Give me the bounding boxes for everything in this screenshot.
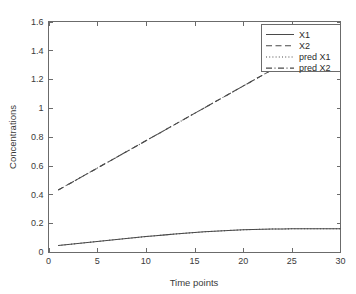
legend-label-pred-x2: pred X2 [299, 63, 331, 73]
y-axis-tick-labels: 00.20.40.60.811.21.41.6 [31, 17, 44, 258]
y-tick-label: 1.2 [31, 74, 44, 84]
y-tick-label: 0.4 [31, 190, 44, 200]
line-chart: 00.20.40.60.811.21.41.6 051015202530 Tim… [0, 0, 356, 294]
y-tick-label: 1.6 [31, 17, 44, 27]
y-axis-label: Concentrations [7, 105, 18, 169]
x-tick-label: 25 [287, 256, 297, 266]
y-tick-label: 0 [38, 247, 43, 257]
y-tick-label: 0.6 [31, 161, 44, 171]
y-tick-label: 0.2 [31, 218, 44, 228]
y-tick-label: 1.4 [31, 46, 44, 56]
y-tick-label: 0.8 [31, 132, 44, 142]
x-tick-label: 30 [335, 256, 345, 266]
x-tick-label: 20 [238, 256, 248, 266]
x-tick-label: 15 [189, 256, 199, 266]
chart-figure: 00.20.40.60.811.21.41.6 051015202530 Tim… [0, 0, 356, 294]
legend-label-x2: X2 [299, 41, 310, 51]
x-tick-label: 10 [141, 256, 151, 266]
legend-label-x1: X1 [299, 30, 310, 40]
x-tick-label: 5 [95, 256, 100, 266]
legend-label-pred-x1: pred X1 [299, 52, 331, 62]
chart-legend: X1X2pred X1pred X2 [262, 25, 341, 74]
y-tick-label: 1 [38, 103, 43, 113]
x-tick-label: 0 [46, 256, 51, 266]
x-axis-label: Time points [170, 277, 219, 288]
